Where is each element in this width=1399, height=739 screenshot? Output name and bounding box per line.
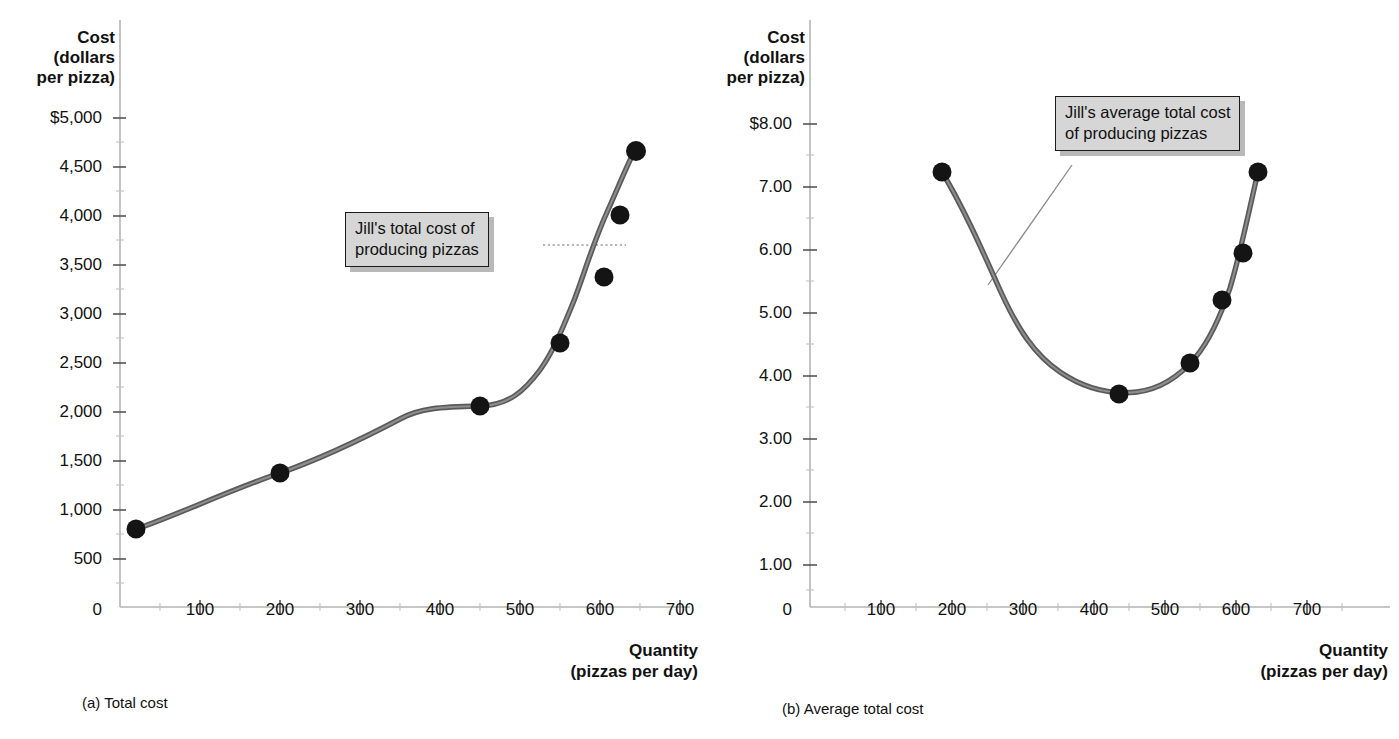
y-tick-label-zero: 0 [700,600,792,620]
data-point [1213,291,1232,310]
data-point [127,520,146,539]
y-tick-label: 2.00 [700,492,792,512]
x-tick-label: 600 [575,600,625,620]
y-tick-label: 3,000 [10,304,102,324]
x-tick-label: 500 [495,600,545,620]
y-tick-label: 2,000 [10,402,102,422]
y-tick-label: $8.00 [700,114,792,134]
x-tick-label: 100 [856,600,906,620]
panel-total-cost: Cost (dollars per pizza) [0,0,699,739]
x-tick-label: 400 [415,600,465,620]
y-tick-label: 1,000 [10,500,102,520]
x-tick-label: 700 [1282,600,1332,620]
chart-a-canvas [0,0,699,739]
data-point [1110,385,1129,404]
x-tick-label: 200 [927,600,977,620]
average-total-cost-markers [933,163,1268,404]
x-tick-label: 300 [335,600,385,620]
data-point [595,268,614,287]
y-tick-label: 6.00 [700,240,792,260]
data-point [626,141,646,161]
x-tick-label: 100 [175,600,225,620]
data-point [1181,354,1200,373]
x-tick-label: 200 [255,600,305,620]
data-point [271,464,290,483]
y-tick-label: 3,500 [10,255,102,275]
cost-curves-figure: Cost (dollars per pizza) [0,0,1399,739]
x-tick-label: 700 [655,600,705,620]
y-tick-label: 3.00 [700,429,792,449]
callout-total-cost: Jill's total cost of producing pizzas [345,212,489,267]
panel-caption-b: (b) Average total cost [782,700,923,717]
total-cost-markers [127,141,647,539]
data-point [611,206,630,225]
x-tick-label: 300 [998,600,1048,620]
y-tick-label: 5.00 [700,303,792,323]
data-point [933,163,952,182]
data-point [1234,244,1253,263]
chart-b-canvas [700,0,1399,739]
y-tick-label: 4,000 [10,206,102,226]
y-tick-label: 4,500 [10,157,102,177]
panel-caption-a: (a) Total cost [82,694,168,711]
callout-leader-b [988,165,1072,285]
y-tick-label: 7.00 [700,177,792,197]
y-tick-label: $5,000 [10,108,102,128]
y-tick-label: 2,500 [10,353,102,373]
data-point [471,397,490,416]
data-point [1249,163,1268,182]
callout-average-total-cost: Jill's average total cost of producing p… [1055,96,1240,151]
x-axis-title-a: Quantity (pizzas per day) [420,640,698,682]
x-tick-label: 400 [1069,600,1119,620]
y-tick-label: 1,500 [10,451,102,471]
y-tick-label: 500 [10,549,102,569]
y-tick-label: 1.00 [700,555,792,575]
y-tick-label: 4.00 [700,366,792,386]
panel-average-total-cost: Cost (dollars per pizza) [700,0,1399,739]
x-axis-title-b: Quantity (pizzas per day) [1110,640,1388,682]
x-tick-label: 600 [1211,600,1261,620]
x-tick-label: 500 [1140,600,1190,620]
data-point [551,334,570,353]
y-tick-label-zero: 0 [10,600,102,620]
